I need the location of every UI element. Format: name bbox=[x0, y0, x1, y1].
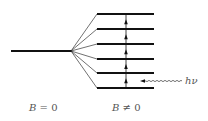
label-field-on: B ≠ 0 bbox=[112, 102, 141, 113]
up-arrow-icon bbox=[124, 19, 128, 24]
up-arrow-icon bbox=[124, 49, 128, 54]
transition-arrows bbox=[124, 14, 128, 88]
label-field-off: B = 0 bbox=[29, 102, 58, 113]
photon-label: hν bbox=[185, 75, 198, 86]
splitting-lines bbox=[71, 14, 97, 88]
up-arrow-icon bbox=[124, 78, 128, 83]
up-arrow-icon bbox=[124, 64, 128, 69]
up-arrow-icon bbox=[124, 34, 128, 39]
photon-wavy-arrow-icon bbox=[140, 79, 182, 83]
